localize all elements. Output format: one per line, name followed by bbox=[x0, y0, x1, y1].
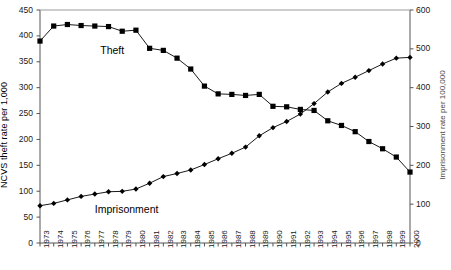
right-axis-tick-label: 200 bbox=[416, 161, 444, 170]
series-label-imprisonment: Imprisonment bbox=[95, 203, 159, 215]
x-axis-tick-label: 1980 bbox=[139, 230, 147, 248]
x-axis-tick-label: 1973 bbox=[43, 230, 51, 248]
left-axis-tick-label: 450 bbox=[7, 6, 33, 15]
x-axis-tick-label: 1979 bbox=[125, 230, 133, 248]
x-axis-tick-label: 1975 bbox=[71, 230, 79, 248]
left-axis-tick-label: 300 bbox=[7, 83, 33, 92]
left-axis-tick-label: 100 bbox=[7, 187, 33, 196]
x-axis-tick-label: 1998 bbox=[386, 230, 394, 248]
x-axis-tick-label: 1992 bbox=[304, 230, 312, 248]
x-axis-tick-label: 1999 bbox=[399, 230, 407, 248]
x-axis-tick-label: 1993 bbox=[317, 230, 325, 248]
x-axis-tick-label: 1981 bbox=[153, 230, 161, 248]
left-axis-tick-label: 400 bbox=[7, 31, 33, 40]
x-axis-tick-label: 1997 bbox=[372, 230, 380, 248]
x-axis-tick-label: 1988 bbox=[249, 230, 257, 248]
x-axis-tick-label: 1994 bbox=[331, 230, 339, 248]
left-axis-tick-label: 250 bbox=[7, 109, 33, 118]
dual-axis-line-chart: NCVS theft rate per 1,000 Imprisonment r… bbox=[0, 0, 451, 270]
x-axis-tick-label: 1991 bbox=[290, 230, 298, 248]
left-axis-tick-label: 150 bbox=[7, 161, 33, 170]
left-axis-tick-label: 200 bbox=[7, 135, 33, 144]
x-axis-tick-label: 1989 bbox=[262, 230, 270, 248]
right-axis-tick-label: 500 bbox=[416, 44, 444, 53]
left-axis-tick-label: 350 bbox=[7, 57, 33, 66]
x-axis-tick-label: 1974 bbox=[57, 230, 65, 248]
x-axis-tick-label: 1978 bbox=[112, 230, 120, 248]
x-axis-tick-label: 1976 bbox=[84, 230, 92, 248]
left-axis-tick-label: 0 bbox=[7, 239, 33, 248]
right-axis-tick-label: 100 bbox=[416, 200, 444, 209]
x-axis-tick-label: 1990 bbox=[276, 230, 284, 248]
x-axis-tick-label: 2000 bbox=[413, 230, 421, 248]
x-axis-tick-label: 1984 bbox=[194, 230, 202, 248]
x-axis-tick-label: 1985 bbox=[208, 230, 216, 248]
left-axis-tick-label: 50 bbox=[7, 213, 33, 222]
series-label-theft: Theft bbox=[100, 44, 124, 56]
x-axis-tick-label: 1977 bbox=[98, 230, 106, 248]
x-axis-tick-label: 1983 bbox=[180, 230, 188, 248]
right-axis-tick-label: 300 bbox=[416, 122, 444, 131]
x-axis-tick-label: 1996 bbox=[358, 230, 366, 248]
x-axis-tick-label: 1987 bbox=[235, 230, 243, 248]
x-axis-tick-label: 1986 bbox=[221, 230, 229, 248]
right-axis-tick-label: 600 bbox=[416, 6, 444, 15]
x-axis-tick-label: 1982 bbox=[167, 230, 175, 248]
x-axis-tick-label: 1995 bbox=[345, 230, 353, 248]
right-axis-tick-label: 400 bbox=[416, 83, 444, 92]
